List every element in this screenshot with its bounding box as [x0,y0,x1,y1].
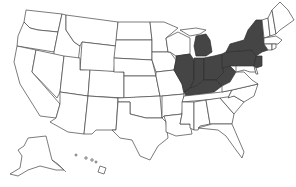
state-maine[interactable] [272,2,294,34]
state-rhode-island[interactable] [272,44,276,50]
state-michigan[interactable] [194,34,212,56]
state-massachusetts[interactable] [264,36,282,44]
state-florida[interactable] [198,124,244,158]
state-new-york[interactable] [226,20,268,56]
state-maryland[interactable] [236,66,256,72]
state-north-dakota[interactable] [116,22,152,40]
state-alaska[interactable] [10,136,64,176]
state-pennsylvania[interactable] [222,50,256,68]
state-montana[interactable] [66,15,118,46]
state-new-mexico[interactable] [84,96,118,134]
state-hawaii[interactable] [75,154,106,174]
state-kansas[interactable] [124,76,160,98]
state-wyoming[interactable] [80,42,116,72]
state-iowa[interactable] [152,52,176,72]
state-south-dakota[interactable] [114,40,152,60]
state-colorado[interactable] [88,70,124,98]
us-map [0,0,296,187]
